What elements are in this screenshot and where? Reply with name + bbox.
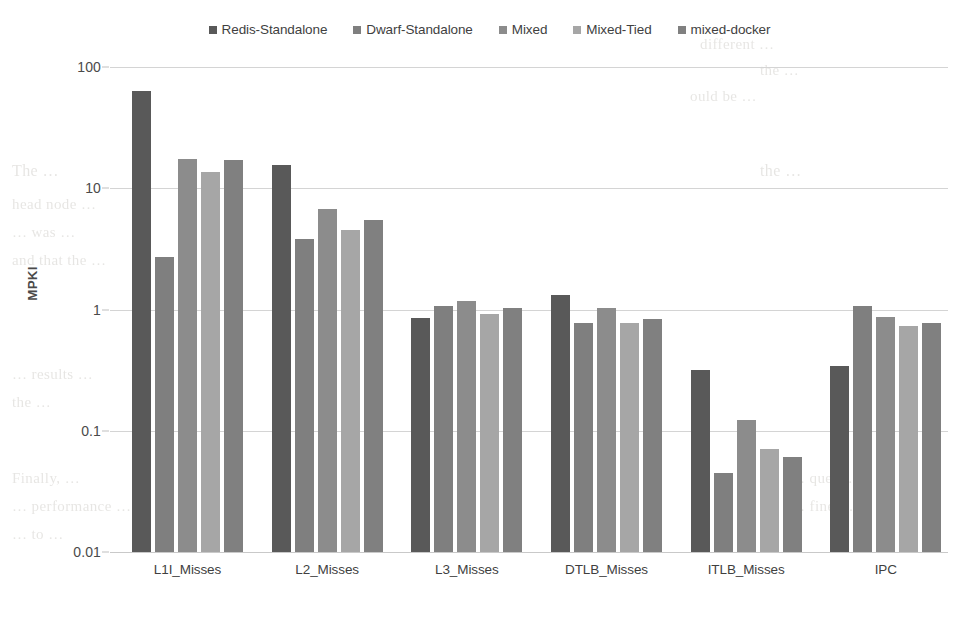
y-tick-mark bbox=[102, 430, 109, 431]
bar[interactable] bbox=[922, 323, 941, 552]
x-axis-category-label: IPC bbox=[875, 562, 897, 577]
legend-item-mixed-docker[interactable]: mixed-docker bbox=[678, 22, 771, 37]
legend-item-mixed[interactable]: Mixed bbox=[499, 22, 548, 37]
y-tick-mark bbox=[102, 552, 109, 553]
bar[interactable] bbox=[620, 323, 639, 552]
bar[interactable] bbox=[643, 319, 662, 552]
bar[interactable] bbox=[155, 257, 174, 552]
bar-group-l1i_misses: L1I_Misses bbox=[132, 67, 243, 552]
y-tick-label: 0.01 bbox=[73, 544, 101, 560]
bar[interactable] bbox=[876, 317, 895, 552]
bar[interactable] bbox=[411, 318, 430, 552]
gridline-0.01 bbox=[110, 552, 948, 553]
bar-groups: L1I_MissesL2_MissesL3_MissesDTLB_MissesI… bbox=[110, 67, 948, 552]
bar[interactable] bbox=[272, 165, 291, 552]
legend-label: Mixed bbox=[512, 22, 548, 37]
x-axis-category-label: ITLB_Misses bbox=[708, 562, 785, 577]
bar[interactable] bbox=[295, 239, 314, 552]
bar[interactable] bbox=[224, 160, 243, 552]
bar[interactable] bbox=[830, 366, 849, 552]
legend-label: Mixed-Tied bbox=[586, 22, 651, 37]
bar[interactable] bbox=[457, 301, 476, 552]
legend-swatch-icon bbox=[209, 26, 217, 34]
x-axis-category-label: L3_Misses bbox=[435, 562, 499, 577]
bar-group-l2_misses: L2_Misses bbox=[272, 67, 383, 552]
bar[interactable] bbox=[853, 306, 872, 552]
x-axis-category-label: DTLB_Misses bbox=[565, 562, 648, 577]
bar[interactable] bbox=[434, 306, 453, 552]
legend-label: mixed-docker bbox=[691, 22, 771, 37]
legend-item-redis-standalone[interactable]: Redis-Standalone bbox=[209, 22, 328, 37]
bar-group-l3_misses: L3_Misses bbox=[411, 67, 522, 552]
bar[interactable] bbox=[597, 308, 616, 552]
bar[interactable] bbox=[503, 308, 522, 552]
bar[interactable] bbox=[341, 230, 360, 552]
y-tick-label: 1 bbox=[93, 302, 101, 318]
bar[interactable] bbox=[574, 323, 593, 552]
plot-area: 1001010.10.01 L1I_MissesL2_MissesL3_Miss… bbox=[110, 55, 948, 555]
bar[interactable] bbox=[364, 220, 383, 552]
bar[interactable] bbox=[714, 473, 733, 552]
bar[interactable] bbox=[132, 91, 151, 552]
bar[interactable] bbox=[480, 314, 499, 552]
x-axis-category-label: L1I_Misses bbox=[154, 562, 221, 577]
bar[interactable] bbox=[737, 420, 756, 552]
legend-item-mixed-tied[interactable]: Mixed-Tied bbox=[573, 22, 651, 37]
bar-group-ipc: IPC bbox=[830, 67, 941, 552]
y-tick-label: 0.1 bbox=[81, 423, 101, 439]
y-tick-mark bbox=[102, 309, 109, 310]
legend-swatch-icon bbox=[499, 26, 507, 34]
bar-group-itlb_misses: ITLB_Misses bbox=[691, 67, 802, 552]
legend-swatch-icon bbox=[573, 26, 581, 34]
bar[interactable] bbox=[783, 457, 802, 552]
bar[interactable] bbox=[691, 370, 710, 552]
y-tick-mark bbox=[102, 188, 109, 189]
x-axis-category-label: L2_Misses bbox=[295, 562, 359, 577]
y-tick-label: 10 bbox=[85, 180, 101, 196]
y-tick-mark bbox=[102, 67, 109, 68]
legend-label: Redis-Standalone bbox=[222, 22, 328, 37]
bar[interactable] bbox=[201, 172, 220, 552]
legend-item-dwarf-standalone[interactable]: Dwarf-Standalone bbox=[353, 22, 472, 37]
bar[interactable] bbox=[178, 159, 197, 552]
bar-group-dtlb_misses: DTLB_Misses bbox=[551, 67, 662, 552]
legend-swatch-icon bbox=[353, 26, 361, 34]
bar[interactable] bbox=[760, 449, 779, 552]
bar[interactable] bbox=[899, 326, 918, 552]
bar-chart: Redis-StandaloneDwarf-StandaloneMixedMix… bbox=[0, 0, 979, 619]
legend-swatch-icon bbox=[678, 26, 686, 34]
chart-legend: Redis-StandaloneDwarf-StandaloneMixedMix… bbox=[0, 22, 979, 37]
y-axis-title: MPKI bbox=[25, 264, 40, 304]
bar[interactable] bbox=[551, 295, 570, 552]
y-tick-label: 100 bbox=[77, 59, 101, 75]
legend-label: Dwarf-Standalone bbox=[366, 22, 472, 37]
bar[interactable] bbox=[318, 209, 337, 552]
